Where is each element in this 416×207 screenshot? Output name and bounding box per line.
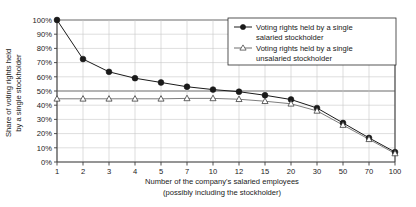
y-tick-label-30: 30% [37,115,52,124]
x-tick-label-100: 100 [389,167,402,176]
x-tick-label-3: 3 [107,167,111,176]
y-tick-label-20: 20% [37,129,52,138]
x-tick-label-5: 5 [159,167,163,176]
y-tick-label-0: 0% [41,158,52,167]
x-tick-label-4: 4 [133,167,137,176]
y-tick-label-80: 80% [37,44,52,53]
filled-circle-icon [240,24,245,29]
data-point [54,17,60,23]
x-tick-label-12: 12 [235,167,243,176]
chart-legend: Voting rights held by a single salaried … [228,18,396,65]
data-point [106,69,112,75]
x-tick-label-50: 50 [339,167,347,176]
x-tick-label-2: 2 [81,167,85,176]
y-tick-label-10: 10% [37,144,52,153]
x-tick-label-20: 20 [287,167,295,176]
data-point [158,80,164,86]
legend-label-salaried-line2: salaried stockholder [256,33,324,42]
data-point [236,89,242,95]
legend-label-unsalaried-line2: unsalaried stockholder [256,54,332,63]
y-axis-title-line2: by a single stockholder [14,54,23,132]
data-point [80,56,86,62]
data-point [132,75,138,81]
y-tick-label-60: 60% [37,73,52,82]
y-tick-label-70: 70% [37,58,52,67]
y-tick-label-100: 100% [33,16,53,25]
y-tick-label-40: 40% [37,101,52,110]
data-point [184,84,190,90]
x-axis-title-line2: (possibly including the stockholder) [163,188,282,197]
x-tick-label-30: 30 [313,167,321,176]
y-axis-title: Share of voting rights held by a single … [4,49,23,137]
y-axis-title-line1: Share of voting rights held [4,49,13,137]
x-tick-label-15: 15 [261,167,269,176]
x-tick-label-1: 1 [55,167,59,176]
x-tick-label-70: 70 [365,167,373,176]
legend-label-salaried-line1: Voting rights held by a single [256,23,353,32]
y-tick-label-90: 90% [37,30,52,39]
chart-container: 0%10%20%30%40%50%60%70%80%90%100% 123457… [0,0,416,207]
legend-label-unsalaried-line1: Voting rights held by a single [256,44,353,53]
voting-rights-line-chart: 0%10%20%30%40%50%60%70%80%90%100% 123457… [0,0,416,207]
x-axis-title-line1: Number of the company's salaried employe… [145,177,299,186]
y-tick-label-50: 50% [37,87,52,96]
x-tick-label-10: 10 [209,167,217,176]
x-tick-label-7: 7 [185,167,189,176]
data-point [210,87,216,93]
